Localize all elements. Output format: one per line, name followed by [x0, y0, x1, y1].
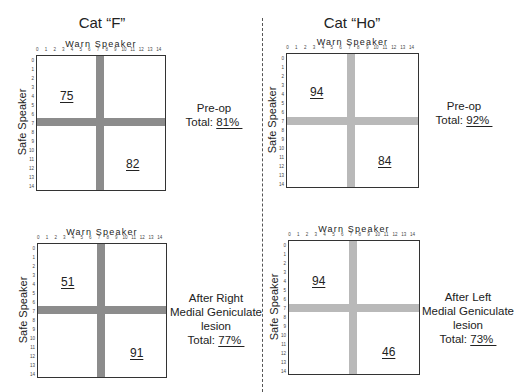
x-tick: 13	[400, 45, 405, 50]
total-prefix: Total:	[440, 333, 471, 345]
x-tick: 9	[367, 232, 370, 237]
x-tick: 1	[46, 235, 49, 240]
x-tick: 10	[122, 235, 127, 240]
y-tick: 9	[31, 139, 34, 144]
y-tick: 5	[32, 290, 35, 295]
y-tick: 8	[31, 130, 34, 135]
y-tick: 6	[31, 111, 34, 116]
y-tick: 11	[30, 344, 35, 349]
x-tick: 3	[62, 47, 65, 52]
y-tick: 13	[279, 172, 284, 177]
x-tick: 0	[37, 235, 40, 240]
x-tick: 7	[97, 47, 100, 52]
y-tick: 6	[32, 299, 35, 304]
total-prefix: Total:	[186, 116, 217, 128]
total-percent: 81%	[216, 116, 242, 128]
x-tick: 5	[79, 47, 82, 52]
x-tick: 13	[401, 232, 406, 237]
safe-boundary-band	[287, 117, 418, 125]
y-tick: 11	[281, 341, 286, 346]
y-tick: 8	[281, 127, 284, 132]
condition-line: Pre-op	[166, 101, 262, 115]
x-tick: 7	[350, 232, 353, 237]
y-tick: 13	[281, 359, 286, 364]
safe-boundary-band	[289, 304, 419, 312]
y-tick: 7	[283, 305, 286, 310]
x-tick: 4	[323, 232, 326, 237]
cat-ho-title: Cat “Ho”	[272, 14, 432, 31]
x-tick: 1	[295, 45, 298, 50]
x-tick: 7	[98, 235, 101, 240]
y-tick: 0	[281, 55, 284, 60]
total-percent: 73%	[470, 333, 496, 345]
x-axis-ticks: 01234567891011121314	[37, 235, 167, 243]
safe-speaker-label: Safe Speaker	[17, 265, 29, 355]
x-tick: 13	[148, 235, 153, 240]
x-tick: 9	[366, 45, 369, 50]
y-tick: 6	[281, 109, 284, 114]
y-tick: 4	[281, 91, 284, 96]
y-tick: 2	[31, 75, 34, 80]
x-tick: 2	[304, 45, 307, 50]
condition-line: lesion	[168, 319, 264, 333]
x-tick: 5	[80, 235, 83, 240]
y-tick: 12	[30, 353, 35, 358]
x-tick: 12	[391, 45, 396, 50]
y-tick: 9	[283, 323, 286, 328]
x-tick: 3	[63, 235, 66, 240]
y-tick: 13	[29, 175, 34, 180]
y-tick: 2	[32, 263, 35, 268]
condition-line: After Left	[420, 290, 516, 304]
condition-label: Pre-opTotal: 92%	[416, 99, 512, 127]
total-line: Total: 73%	[420, 332, 516, 346]
x-axis-ticks: 01234567891011121314	[288, 232, 420, 240]
y-tick: 2	[281, 73, 284, 78]
x-tick: 6	[339, 45, 342, 50]
condition-line: Pre-op	[416, 99, 512, 113]
x-tick: 0	[288, 232, 291, 237]
y-tick: 14	[29, 184, 34, 189]
y-tick: 9	[32, 326, 35, 331]
y-tick: 1	[31, 66, 34, 71]
y-tick: 3	[281, 82, 284, 87]
x-tick: 2	[306, 232, 309, 237]
y-tick: 11	[279, 154, 284, 159]
y-tick: 3	[32, 272, 35, 277]
x-tick: 4	[72, 235, 75, 240]
y-tick: 13	[30, 362, 35, 367]
y-tick: 5	[283, 287, 286, 292]
x-tick: 1	[297, 232, 300, 237]
x-tick: 2	[54, 235, 57, 240]
safe-boundary-band	[38, 306, 166, 314]
y-tick: 14	[281, 368, 286, 373]
safe-speaker-label: Safe Speaker	[268, 262, 280, 352]
y-tick: 1	[281, 64, 284, 69]
x-tick: 13	[147, 47, 152, 52]
y-tick: 10	[279, 145, 284, 150]
safe-speaker-label: Safe Speaker	[266, 75, 278, 165]
upper-left-score: 94	[312, 274, 325, 288]
x-axis-ticks: 01234567891011121314	[286, 45, 419, 53]
x-tick: 6	[89, 235, 92, 240]
y-tick: 12	[29, 166, 34, 171]
y-tick: 0	[283, 242, 286, 247]
y-tick: 9	[281, 136, 284, 141]
y-tick: 5	[281, 100, 284, 105]
total-line: Total: 92%	[416, 113, 512, 127]
x-tick: 4	[322, 45, 325, 50]
x-tick: 3	[313, 45, 316, 50]
upper-left-score: 75	[60, 89, 73, 103]
x-tick: 6	[88, 47, 91, 52]
y-tick: 0	[31, 57, 34, 62]
total-line: Total: 77%	[168, 333, 264, 347]
x-tick: 14	[409, 45, 414, 50]
x-tick: 0	[36, 47, 39, 52]
y-tick: 12	[281, 350, 286, 355]
y-tick: 0	[32, 245, 35, 250]
x-tick: 8	[105, 47, 108, 52]
y-tick: 4	[283, 278, 286, 283]
y-tick: 5	[31, 102, 34, 107]
y-tick: 2	[283, 260, 286, 265]
total-percent: 77%	[218, 334, 244, 346]
x-tick: 9	[114, 47, 117, 52]
